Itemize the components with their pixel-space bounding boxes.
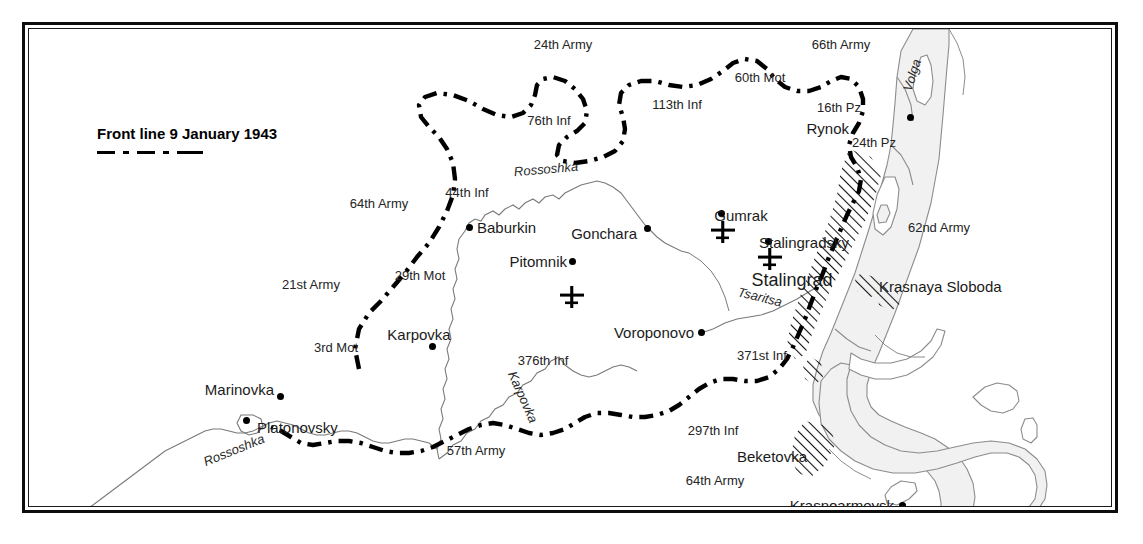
unit-label-62nd-army: 62nd Army — [908, 221, 970, 234]
settlement-dot-krasnoarmeysk — [899, 502, 906, 507]
unit-label-16th-pz: 16th Pz — [817, 101, 861, 114]
settlement-label-stalingradsky: Stalingradsky — [759, 235, 849, 250]
settlement-label-stalingrad: Stalingrad — [751, 271, 832, 289]
volga-southern-bend — [819, 329, 1047, 507]
unit-label-76th-inf: 76th Inf — [527, 114, 570, 127]
map-root: Rynok Gumrak Stalingradsky Stalingrad Ba… — [0, 0, 1143, 544]
unit-label-29th-mot: 29th Mot — [395, 269, 446, 282]
map-frame-inner: Rynok Gumrak Stalingradsky Stalingrad Ba… — [28, 28, 1112, 507]
unit-label-66th-army: 66th Army — [812, 38, 871, 51]
unit-label-44th-inf: 44th Inf — [445, 186, 488, 199]
settlement-label-marinovka: Marinovka — [205, 382, 274, 397]
settlement-label-pitomnik: Pitomnik — [509, 254, 567, 269]
settlement-dot-pitomnik — [569, 258, 576, 265]
unit-label-60th-mot: 60th Mot — [735, 71, 786, 84]
map-geography-layer — [29, 29, 1112, 507]
unit-label-297th-inf: 297th Inf — [688, 424, 739, 437]
settlement-dot-voroponovo — [698, 329, 705, 336]
settlement-dot-gonchara — [644, 225, 651, 232]
settlement-label-voroponovo: Voroponovo — [614, 325, 694, 340]
settlement-dot-karpovka — [429, 343, 436, 350]
unit-label-57th-army: 57th Army — [447, 444, 506, 457]
settlement-label-karpovka: Karpovka — [387, 327, 450, 342]
settlement-label-platonovsky: Platonovsky — [257, 420, 338, 435]
unit-label-64th-army-south: 64th Army — [686, 474, 745, 487]
settlement-dot-rynok — [907, 114, 914, 121]
settlement-label-baburkin: Baburkin — [477, 220, 536, 235]
settlement-label-beketovka: Beketovka — [737, 449, 807, 464]
unit-label-371st-inf: 371st Inf — [737, 349, 787, 362]
settlement-dot-platonovsky — [243, 417, 250, 424]
settlement-dot-marinovka — [277, 393, 284, 400]
settlement-label-rynok: Rynok — [806, 121, 849, 136]
unit-label-3rd-mot: 3rd Mot — [314, 341, 358, 354]
map-frame-outer: Rynok Gumrak Stalingradsky Stalingrad Ba… — [22, 22, 1118, 513]
airfield-icon-gumrak — [710, 220, 736, 244]
unit-label-24th-pz: 24th Pz — [852, 136, 896, 149]
rossoshka-river-north — [459, 181, 689, 253]
unit-label-376th-inf: 376th Inf — [518, 354, 569, 367]
settlement-label-krasnoarmeysk: Krasnoarmeysk — [790, 498, 894, 508]
unit-label-21st-army: 21st Army — [282, 278, 340, 291]
map-canvas: Rynok Gumrak Stalingradsky Stalingrad Ba… — [29, 29, 1112, 507]
settlement-label-gumrak: Gumrak — [714, 208, 767, 223]
airfield-icon-pitomnik — [559, 285, 585, 309]
settlement-dot-baburkin — [466, 224, 473, 231]
legend-title: Front line 9 January 1943 — [97, 126, 277, 141]
settlement-label-gonchara: Gonchara — [571, 226, 637, 241]
settlement-label-krasnaya-sloboda: Krasnaya Sloboda — [879, 279, 1002, 294]
unit-label-24th-army: 24th Army — [534, 38, 593, 51]
airfield-icon-stalingradsky — [757, 247, 783, 271]
legend-front-line-symbol — [97, 151, 203, 154]
unit-label-64th-army-north: 64th Army — [350, 197, 409, 210]
kessel-pocket-boundary — [689, 253, 729, 311]
unit-label-113th-inf: 113th Inf — [652, 98, 702, 111]
